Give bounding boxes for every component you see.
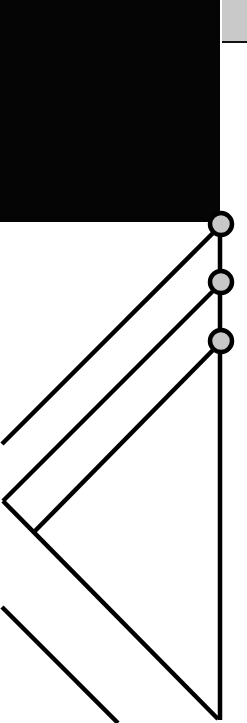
node-1-circle [210,213,232,235]
edge-node1-left-line [2,231,215,444]
node-3-circle [210,330,232,352]
edge-node2-vertex-line [3,289,215,501]
edge-lower-line [2,607,118,723]
node-2-circle [210,271,232,293]
diagram-canvas [0,0,247,723]
edge-vertex-bottom-line [3,501,218,719]
